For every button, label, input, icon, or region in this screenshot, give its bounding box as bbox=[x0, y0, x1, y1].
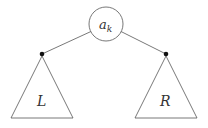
left-subtree: L bbox=[11, 52, 73, 118]
root-label: a bbox=[99, 17, 107, 32]
root-node: ak bbox=[89, 7, 123, 41]
edge-root-left bbox=[42, 31, 92, 54]
binary-tree-diagram: ak L R bbox=[0, 0, 208, 128]
right-child-dot bbox=[164, 52, 169, 57]
right-subtree-label: R bbox=[159, 93, 171, 109]
left-child-dot bbox=[40, 52, 45, 57]
edge-root-right bbox=[120, 31, 166, 54]
root-subscript: k bbox=[107, 24, 112, 34]
right-subtree: R bbox=[135, 52, 197, 118]
left-subtree-label: L bbox=[36, 93, 46, 109]
